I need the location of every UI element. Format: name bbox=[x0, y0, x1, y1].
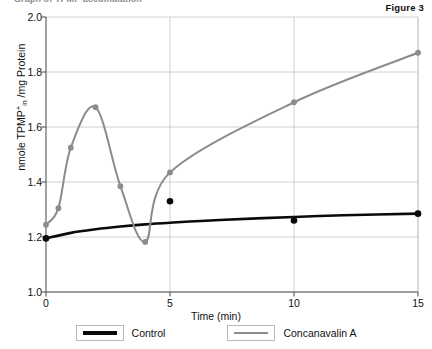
data-point-marker bbox=[291, 217, 298, 224]
data-point-marker bbox=[43, 235, 50, 242]
legend: Control Concanavalin A bbox=[0, 325, 432, 341]
legend-label-control: Control bbox=[132, 327, 166, 339]
legend-item-concanavalin-a[interactable]: Concanavalin A bbox=[227, 325, 356, 341]
data-point-marker bbox=[93, 104, 99, 110]
data-point-marker bbox=[118, 183, 124, 189]
data-point-marker bbox=[415, 210, 422, 217]
legend-label-concanavalin-a: Concanavalin A bbox=[283, 327, 356, 339]
gridlines bbox=[46, 17, 418, 292]
legend-item-control[interactable]: Control bbox=[76, 325, 166, 341]
data-point-marker bbox=[56, 205, 62, 211]
axis-frame bbox=[42, 17, 419, 297]
data-point-marker bbox=[167, 169, 173, 175]
line-swatch-gray-icon bbox=[227, 325, 275, 341]
data-point-marker bbox=[43, 222, 49, 228]
data-series bbox=[43, 50, 422, 245]
data-point-marker bbox=[142, 239, 148, 245]
data-point-marker bbox=[68, 145, 74, 151]
line-swatch-black-icon bbox=[76, 325, 124, 341]
series-line-0 bbox=[46, 214, 418, 239]
data-point-marker bbox=[415, 50, 421, 56]
data-point-marker bbox=[167, 198, 174, 205]
figure-container: Graph of TPMP accumulation Figure 3 nmol… bbox=[0, 0, 432, 349]
plot-area bbox=[0, 0, 432, 349]
data-point-marker bbox=[291, 99, 297, 105]
